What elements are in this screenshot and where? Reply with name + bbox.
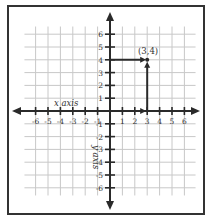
y-tick-label: 6 — [98, 30, 103, 39]
y-axis-label: y axis — [91, 144, 101, 170]
y-tick-label: -1 — [96, 120, 103, 129]
coordinate-plane: -6-5-4-3-2-1123456654321-1-2-3-4-5-6 x a… — [0, 0, 212, 220]
x-tick-label: -3 — [69, 117, 77, 126]
y-tick-label: 3 — [98, 69, 103, 78]
x-tick-label: 5 — [170, 117, 175, 126]
x-tick-label: -4 — [57, 117, 65, 126]
y-tick-label: -2 — [96, 133, 104, 142]
y-tick-label: 1 — [98, 94, 103, 103]
point-marker — [145, 58, 149, 62]
x-axis-label: x axis — [54, 98, 79, 108]
x-tick-label: -6 — [32, 117, 40, 126]
y-tick-label: 5 — [98, 43, 103, 52]
x-tick-label: 3 — [145, 117, 150, 126]
x-tick-label: 6 — [182, 117, 187, 126]
x-tick-label: 1 — [120, 117, 125, 126]
y-tick-label: 2 — [98, 81, 103, 90]
x-tick-label: -5 — [44, 117, 52, 126]
x-tick-label: -2 — [82, 117, 90, 126]
y-tick-label: -6 — [96, 184, 104, 193]
x-tick-label: 4 — [157, 117, 162, 126]
y-tick-label: 4 — [98, 56, 103, 65]
x-tick-label: 2 — [132, 117, 137, 126]
point-label: (3,4) — [138, 46, 158, 56]
y-tick-label: -5 — [96, 171, 104, 180]
